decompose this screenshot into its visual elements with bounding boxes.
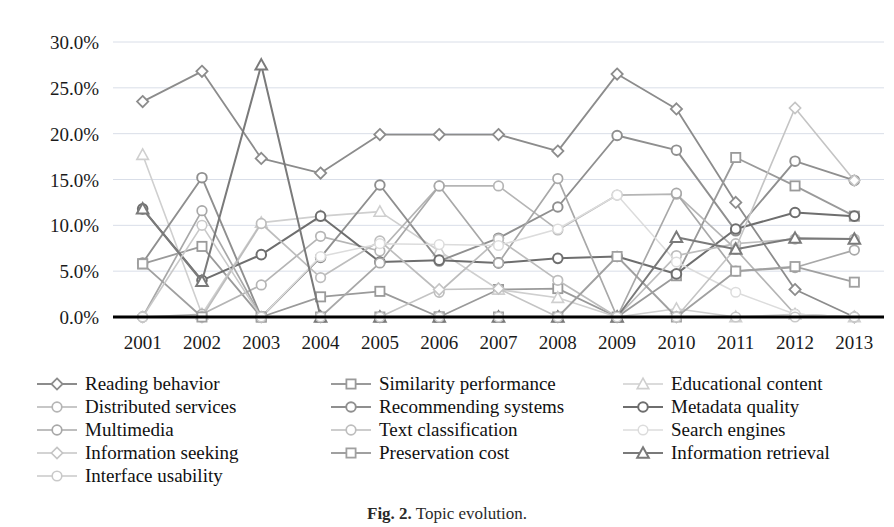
legend-item[interactable]: Similarity performance	[330, 372, 622, 395]
data-point-marker	[346, 402, 356, 412]
data-point-marker	[315, 167, 326, 178]
data-point-marker	[346, 425, 356, 435]
legend-item[interactable]: Preservation cost	[330, 441, 622, 464]
legend-item[interactable]: Educational content	[622, 372, 894, 395]
data-point-marker	[613, 252, 622, 261]
data-point-marker	[671, 231, 683, 241]
legend-item[interactable]: Information retrieval	[622, 441, 894, 464]
legend-label: Distributed services	[85, 397, 236, 416]
data-point-marker	[730, 197, 741, 208]
data-point-marker	[789, 284, 800, 295]
legend-symbol	[622, 398, 664, 416]
legend-column-2: Similarity performanceRecommending syste…	[330, 372, 622, 464]
legend-label: Search engines	[671, 420, 785, 439]
data-point-marker	[51, 447, 62, 458]
data-point-marker	[671, 103, 682, 114]
data-point-marker	[197, 242, 206, 251]
x-axis-tick-label: 2007	[480, 332, 518, 353]
y-axis-tick-label: 30.0%	[50, 32, 99, 53]
x-axis-tick-label: 2011	[717, 332, 754, 353]
legend-item[interactable]: Reading behavior	[36, 372, 336, 395]
legend-column-3: Educational contentMetadata qualitySearc…	[622, 372, 894, 464]
legend-item[interactable]: Recommending systems	[330, 395, 622, 418]
legend-marker-icon	[622, 444, 664, 462]
figure-root: 0.0%5.0%10.0%15.0%20.0%25.0%30.0%2001200…	[0, 0, 894, 527]
legend-marker-icon	[36, 398, 78, 416]
line-chart: 0.0%5.0%10.0%15.0%20.0%25.0%30.0%2001200…	[0, 0, 894, 370]
data-point-marker	[256, 280, 266, 290]
data-point-marker	[434, 181, 444, 191]
data-point-marker	[790, 262, 799, 271]
series-distributed-services	[138, 181, 859, 322]
y-axis-tick-label: 0.0%	[59, 307, 99, 328]
legend-label: Information retrieval	[671, 443, 830, 462]
legend-symbol	[330, 398, 372, 416]
legend-item[interactable]: Distributed services	[36, 395, 336, 418]
x-axis-tick-label: 2005	[361, 332, 399, 353]
chart-legend: Reading behaviorDistributed servicesMult…	[0, 372, 894, 487]
data-point-marker	[494, 241, 504, 251]
legend-item[interactable]: Information seeking	[36, 441, 336, 464]
data-point-marker	[731, 287, 741, 297]
data-point-marker	[434, 255, 444, 265]
data-point-marker	[850, 245, 860, 255]
data-point-marker	[196, 66, 207, 77]
data-point-marker	[197, 206, 207, 216]
x-axis-tick-label: 2012	[776, 332, 814, 353]
legend-label: Preservation cost	[379, 443, 509, 462]
legend-label: Reading behavior	[85, 374, 220, 393]
data-point-marker	[638, 402, 648, 412]
legend-item[interactable]: Multimedia	[36, 418, 336, 441]
data-point-marker	[197, 173, 207, 183]
legend-symbol	[36, 421, 78, 439]
legend-symbol	[622, 444, 664, 462]
data-point-marker	[434, 240, 444, 250]
data-point-marker	[494, 258, 504, 268]
legend-label: Multimedia	[85, 420, 174, 439]
legend-label: Similarity performance	[379, 374, 556, 393]
data-point-marker	[52, 402, 62, 412]
data-point-marker	[553, 254, 563, 264]
legend-marker-icon	[330, 398, 372, 416]
legend-symbol	[330, 421, 372, 439]
legend-label: Recommending systems	[379, 397, 564, 416]
legend-marker-icon	[622, 375, 664, 393]
legend-item[interactable]: Text classification	[330, 418, 622, 441]
data-point-marker	[672, 257, 682, 267]
data-point-marker	[256, 219, 266, 229]
data-point-marker	[52, 425, 62, 435]
data-point-marker	[731, 267, 740, 276]
data-point-marker	[850, 211, 860, 221]
legend-label: Educational content	[671, 374, 822, 393]
legend-symbol	[330, 375, 372, 393]
y-axis-tick-label: 10.0%	[50, 215, 99, 236]
legend-item[interactable]: Search engines	[622, 418, 894, 441]
data-point-marker	[375, 239, 385, 249]
data-point-marker	[256, 153, 267, 164]
legend-label: Metadata quality	[671, 397, 799, 416]
data-point-marker	[346, 448, 355, 457]
data-point-marker	[553, 174, 563, 184]
legend-marker-icon	[36, 375, 78, 393]
data-point-marker	[790, 156, 800, 166]
data-point-marker	[51, 378, 62, 389]
x-axis-tick-label: 2002	[183, 332, 221, 353]
data-point-marker	[197, 221, 207, 231]
data-point-marker	[494, 181, 504, 191]
x-axis-tick-label: 2003	[242, 332, 280, 353]
data-point-marker	[316, 273, 326, 283]
y-axis-tick-label: 25.0%	[50, 78, 99, 99]
legend-item[interactable]: Interface usability	[36, 464, 336, 487]
x-axis-tick-label: 2009	[598, 332, 636, 353]
legend-label: Interface usability	[85, 466, 223, 485]
data-point-marker	[137, 96, 148, 107]
data-point-marker	[346, 379, 355, 388]
figure-caption: Fig. 2. Topic evolution.	[0, 504, 894, 527]
legend-item[interactable]: Metadata quality	[622, 395, 894, 418]
caption-text: Topic evolution.	[412, 504, 527, 523]
data-point-marker	[672, 188, 682, 198]
legend-symbol	[36, 375, 78, 393]
data-point-marker	[612, 131, 622, 141]
legend-marker-icon	[330, 444, 372, 462]
legend-symbol	[622, 375, 664, 393]
